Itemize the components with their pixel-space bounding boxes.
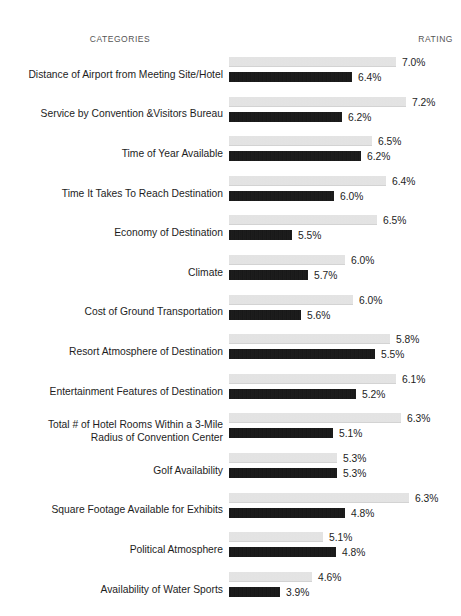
category-label: Total # of Hotel Rooms Within a 3-Mile R…	[8, 419, 223, 444]
bar-light	[229, 97, 406, 107]
bar-value-label: 5.5%	[298, 230, 321, 241]
bar-dark	[229, 270, 308, 280]
bar-light	[229, 136, 372, 146]
bar-line-light: 6.1%	[229, 374, 461, 384]
chart-header: CATEGORIES RATING	[0, 34, 461, 50]
bar-value-label: 6.1%	[402, 373, 425, 384]
bar-dark	[229, 468, 337, 478]
bar-value-label: 7.0%	[402, 57, 425, 68]
bar-line-dark: 4.8%	[229, 547, 461, 557]
bar-value-label: 6.4%	[392, 175, 415, 186]
chart-rows: Distance of Airport from Meeting Site/Ho…	[0, 55, 461, 609]
bar-value-label: 6.2%	[348, 111, 371, 122]
category-label: Entertainment Features of Destination	[8, 385, 223, 397]
bar-dark	[229, 112, 342, 122]
chart-row: Distance of Airport from Meeting Site/Ho…	[0, 55, 461, 95]
bar-line-light: 7.0%	[229, 57, 461, 67]
bar-line-light: 5.8%	[229, 334, 461, 344]
bar-line-light: 6.4%	[229, 176, 461, 186]
bar-line-dark: 5.2%	[229, 389, 461, 399]
bar-line-light: 7.2%	[229, 97, 461, 107]
bar-line-light: 6.3%	[229, 413, 461, 423]
bar-line-dark: 5.3%	[229, 468, 461, 478]
chart-row: Cost of Ground Transportation6.0%5.6%	[0, 293, 461, 333]
category-label: Availability of Water Sports	[8, 583, 223, 595]
row-bars: 6.0%5.6%	[229, 293, 461, 333]
bar-line-dark: 5.6%	[229, 310, 461, 320]
chart-row: Golf Availability5.3%5.3%	[0, 451, 461, 491]
chart-row: Availability of Water Sports4.6%3.9%	[0, 570, 461, 610]
bar-light	[229, 374, 396, 384]
bar-value-label: 6.0%	[359, 294, 382, 305]
bar-value-label: 6.4%	[358, 72, 381, 83]
bar-value-label: 4.8%	[351, 507, 374, 518]
bar-dark	[229, 587, 280, 597]
bar-value-label: 5.2%	[362, 388, 385, 399]
category-label: Time of Year Available	[8, 148, 223, 160]
row-bars: 7.0%6.4%	[229, 55, 461, 95]
category-label: Distance of Airport from Meeting Site/Ho…	[8, 69, 223, 81]
category-label: Political Atmosphere	[8, 544, 223, 556]
bar-value-label: 4.6%	[318, 571, 341, 582]
bar-value-label: 6.5%	[378, 136, 401, 147]
row-bars: 6.4%6.0%	[229, 174, 461, 214]
chart-row: Resort Atmosphere of Destination5.8%5.5%	[0, 332, 461, 372]
bar-line-dark: 5.5%	[229, 349, 461, 359]
bar-dark	[229, 191, 334, 201]
row-bars: 6.1%5.2%	[229, 372, 461, 412]
bar-line-light: 6.3%	[229, 493, 461, 503]
bar-line-dark: 3.9%	[229, 587, 461, 597]
bar-light	[229, 334, 390, 344]
bar-light	[229, 572, 312, 582]
bar-value-label: 5.6%	[307, 309, 330, 320]
bar-light	[229, 215, 377, 225]
bar-line-light: 6.0%	[229, 295, 461, 305]
bar-light	[229, 295, 353, 305]
bar-value-label: 5.1%	[339, 428, 362, 439]
bar-dark	[229, 428, 333, 438]
bar-value-label: 6.0%	[351, 254, 374, 265]
chart-row: Time It Takes To Reach Destination6.4%6.…	[0, 174, 461, 214]
category-label: Time It Takes To Reach Destination	[8, 187, 223, 199]
bar-dark	[229, 547, 336, 557]
bar-light	[229, 493, 409, 503]
row-bars: 5.8%5.5%	[229, 332, 461, 372]
bar-value-label: 5.7%	[314, 269, 337, 280]
bar-line-light: 6.5%	[229, 136, 461, 146]
chart-row: Entertainment Features of Destination6.1…	[0, 372, 461, 412]
bar-light	[229, 413, 401, 423]
bar-dark	[229, 151, 361, 161]
bar-value-label: 6.5%	[383, 215, 406, 226]
bar-dark	[229, 230, 292, 240]
category-label: Economy of Destination	[8, 227, 223, 239]
bar-value-label: 4.8%	[342, 547, 365, 558]
bar-line-dark: 5.5%	[229, 230, 461, 240]
bar-value-label: 6.3%	[415, 492, 438, 503]
chart-row: Time of Year Available6.5%6.2%	[0, 134, 461, 174]
bar-light	[229, 453, 337, 463]
row-bars: 4.6%3.9%	[229, 570, 461, 610]
chart-row: Square Footage Available for Exhibits6.3…	[0, 491, 461, 531]
bar-value-label: 6.2%	[367, 151, 390, 162]
bar-value-label: 6.3%	[407, 413, 430, 424]
bar-dark	[229, 389, 356, 399]
bar-value-label: 5.3%	[343, 467, 366, 478]
bar-line-light: 4.6%	[229, 572, 461, 582]
rating-bar-chart: CATEGORIES RATING Distance of Airport fr…	[0, 0, 461, 616]
category-label: Square Footage Available for Exhibits	[8, 504, 223, 516]
category-label: Resort Atmosphere of Destination	[8, 346, 223, 358]
category-label: Cost of Ground Transportation	[8, 306, 223, 318]
bar-value-label: 5.5%	[381, 349, 404, 360]
bar-line-dark: 6.2%	[229, 112, 461, 122]
bar-value-label: 5.3%	[343, 452, 366, 463]
rating-column-header: RATING	[418, 34, 453, 44]
row-bars: 6.3%4.8%	[229, 491, 461, 531]
bar-value-label: 3.9%	[286, 586, 309, 597]
categories-column-header: CATEGORIES	[0, 34, 240, 44]
bar-value-label: 6.0%	[340, 190, 363, 201]
chart-row: Total # of Hotel Rooms Within a 3-Mile R…	[0, 411, 461, 451]
row-bars: 5.1%4.8%	[229, 530, 461, 570]
row-bars: 6.5%6.2%	[229, 134, 461, 174]
bar-dark	[229, 349, 375, 359]
bar-dark	[229, 72, 352, 82]
